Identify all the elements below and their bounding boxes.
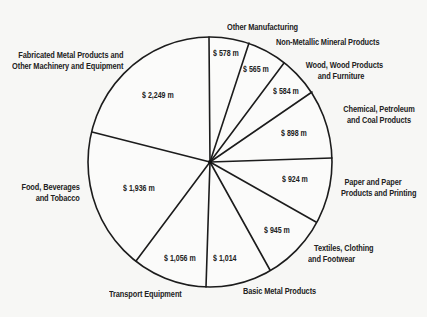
label-paper-line2: Products and Printing bbox=[341, 188, 416, 199]
value-food: $ 1,936 m bbox=[123, 183, 155, 193]
value-other-manufacturing: $ 578 m bbox=[213, 48, 239, 58]
label-chemical-line2: and Coal Products bbox=[339, 115, 418, 126]
label-textiles-line1: Textiles, Clothing bbox=[308, 243, 374, 254]
label-food-line2: and Tobacco bbox=[22, 193, 80, 204]
label-wood-line2: and Furniture bbox=[306, 71, 377, 82]
label-wood-line1: Wood, Wood Products bbox=[306, 60, 377, 71]
label-other-manufacturing: Other Manufacturing bbox=[227, 22, 298, 33]
label-textiles: Textiles, Clothing and Footwear bbox=[308, 243, 374, 265]
label-textiles-line2: and Footwear bbox=[308, 254, 374, 265]
label-paper: Paper and Paper Products and Printing bbox=[341, 177, 416, 199]
value-paper: $ 924 m bbox=[282, 174, 308, 184]
label-wood: Wood, Wood Products and Furniture bbox=[306, 60, 377, 82]
label-fabricated-line1: Fabricated Metal Products and bbox=[12, 50, 123, 61]
label-non-metallic: Non-Metallic Mineral Products bbox=[276, 37, 379, 48]
value-transport: $ 1,056 m bbox=[164, 253, 196, 263]
label-transport: Transport Equipment bbox=[109, 289, 182, 300]
value-chemical: $ 898 m bbox=[281, 128, 307, 138]
divider-fabricated-other bbox=[209, 37, 210, 162]
label-chemical-line1: Chemical, Petroleum bbox=[339, 104, 418, 115]
label-fabricated: Fabricated Metal Products and Other Mach… bbox=[12, 50, 123, 72]
label-fabricated-line2: Other Machinery and Equipment bbox=[12, 61, 123, 72]
pie-center bbox=[208, 160, 212, 164]
label-food-line1: Food, Beverages bbox=[22, 182, 80, 193]
value-non-metallic: $ 565 m bbox=[243, 64, 269, 74]
value-textiles: $ 945 m bbox=[264, 225, 290, 235]
label-food: Food, Beverages and Tobacco bbox=[22, 182, 80, 204]
label-chemical: Chemical, Petroleum and Coal Products bbox=[339, 104, 418, 126]
value-fabricated: $ 2,249 m bbox=[142, 90, 174, 100]
label-basic-metal: Basic Metal Products bbox=[243, 286, 316, 297]
label-paper-line1: Paper and Paper bbox=[341, 177, 416, 188]
value-basic-metal: $ 1,014 bbox=[213, 253, 237, 263]
value-wood: $ 584 m bbox=[273, 86, 299, 96]
pie-chart: Other Manufacturing Non-Metallic Mineral… bbox=[0, 0, 427, 317]
